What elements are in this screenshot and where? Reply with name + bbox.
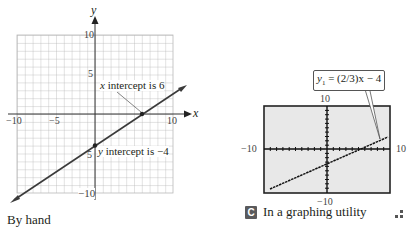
y-axis-label: y [91,3,96,18]
y-intercept-point [93,143,97,147]
y-intercept-label: y intercept is −4 [98,146,169,157]
tick-y-5: 5 [88,68,93,79]
expand-dots-icon[interactable] [395,210,404,219]
x-intercept-label: x intercept is 6 [100,80,164,91]
x-axis-label: x [193,106,198,121]
line-arrow-lower-icon [10,195,20,203]
caption-by-hand: By hand [7,212,51,228]
window-ymax-label: 10 [320,93,330,104]
tick-x-10: 10 [167,115,177,126]
window-xmax-label: 10 [396,143,406,154]
equation-callout: y1 = (2/3)x − 4 [313,70,385,91]
window-xmin-label: −10 [241,143,257,154]
tick-x-neg5: −5 [49,115,60,126]
tick-x-neg10: −10 [6,115,22,126]
x-axis-arrow-icon [184,111,192,118]
x-intercept-point [140,112,144,116]
caption-badge-c: C [245,206,257,219]
tick-y-10: 10 [84,29,94,40]
tick-y-neg5: 5 [87,149,92,160]
caption-graphing-utility: In a graphing utility [263,204,367,220]
tick-y-neg10: −10 [78,188,95,199]
line-arrow-upper-icon [178,85,187,92]
